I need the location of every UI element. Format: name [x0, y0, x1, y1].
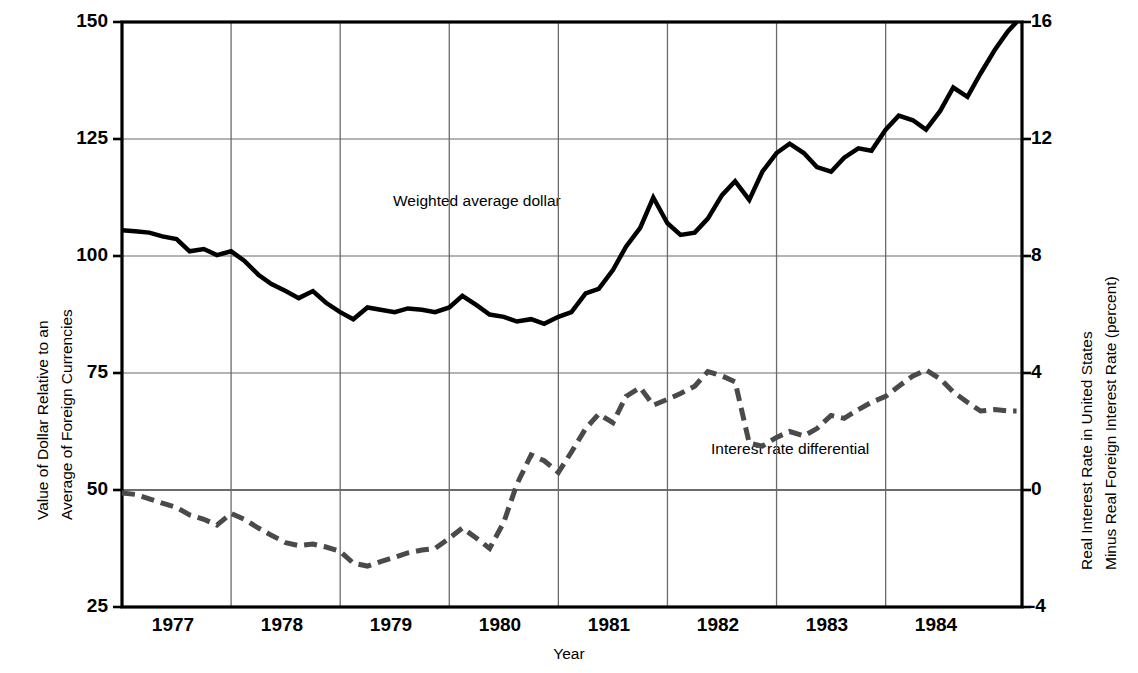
- plot-frame: [122, 22, 1022, 607]
- chart-figure: Value of Dollar Relative to an Average o…: [0, 0, 1138, 673]
- plot-canvas: [0, 0, 1138, 673]
- series-line-interest-rate-differential: [122, 370, 1017, 566]
- series-line-weighted-average-dollar: [122, 22, 1017, 324]
